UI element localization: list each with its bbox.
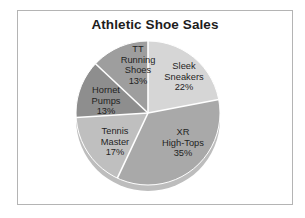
chart-title: Athletic Shoe Sales	[17, 17, 293, 33]
screenshot-canvas: Athletic Shoe Sales TT Running Shoes 13%…	[0, 0, 305, 218]
pie-chart-svg	[74, 39, 224, 191]
pie-chart: TT Running Shoes 13% Sleek Sneakers 22% …	[74, 39, 224, 191]
